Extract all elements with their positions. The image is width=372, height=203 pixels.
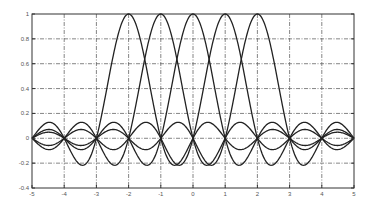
y-tick-label: -0.4 <box>19 185 30 191</box>
x-tick-label: 5 <box>352 191 356 197</box>
x-tick-label: -3 <box>94 191 100 197</box>
y-tick-label: -0.2 <box>19 160 30 166</box>
x-tick-label: 1 <box>224 191 228 197</box>
y-tick-label: 0.4 <box>21 86 30 92</box>
y-tick-label: 0.8 <box>21 36 30 42</box>
x-tick-label: 0 <box>191 191 195 197</box>
x-tick-label: -2 <box>126 191 132 197</box>
x-tick-label: 2 <box>256 191 260 197</box>
y-tick-label: 0 <box>26 135 30 141</box>
x-tick-label: -4 <box>62 191 68 197</box>
x-tick-label: 4 <box>320 191 324 197</box>
x-axis-ticks: -5-4-3-2-1012345 <box>29 185 356 197</box>
y-tick-label: 0.2 <box>21 110 30 116</box>
y-axis-ticks: -0.4-0.200.20.40.60.81 <box>19 11 354 191</box>
y-tick-label: 1 <box>26 11 30 17</box>
x-tick-label: -1 <box>158 191 164 197</box>
sinc-chart: -5-4-3-2-1012345 -0.4-0.200.20.40.60.81 <box>0 0 372 203</box>
grid-lines <box>32 14 354 188</box>
x-tick-label: 3 <box>288 191 292 197</box>
x-tick-label: -5 <box>29 191 35 197</box>
y-tick-label: 0.6 <box>21 61 30 67</box>
